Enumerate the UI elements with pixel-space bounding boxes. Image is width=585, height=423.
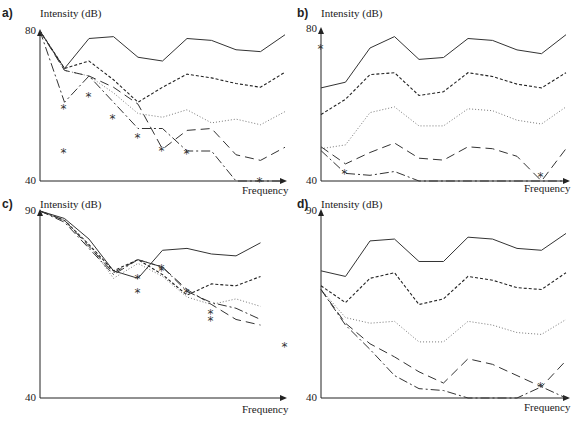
plot-area <box>0 0 585 200</box>
panel-b: b) Intensity (dB) 80 40 Frequency <box>0 0 585 200</box>
panel-d: d) Intensity (dB) 90 40 Frequency <box>0 200 585 423</box>
plot-area <box>0 200 585 423</box>
